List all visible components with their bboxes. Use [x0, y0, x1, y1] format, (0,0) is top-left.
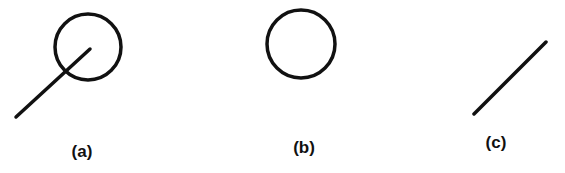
figure-b-label: (b) — [293, 139, 315, 156]
figure-a-label: (a) — [72, 143, 93, 160]
figure-b — [267, 10, 335, 78]
figure-b-circle — [267, 10, 335, 78]
figure-a-line — [16, 49, 90, 117]
figure-c-label: (c) — [486, 134, 507, 151]
figure-c-line — [474, 42, 546, 114]
figure-a — [16, 14, 121, 117]
figure-c — [474, 42, 546, 114]
